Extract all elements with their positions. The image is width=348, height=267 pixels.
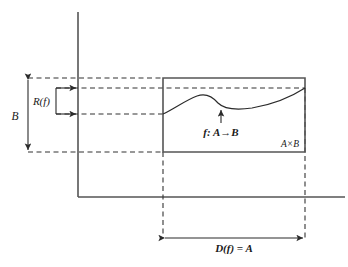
function-curve	[163, 88, 305, 114]
domain-label: D(f) = A	[214, 242, 253, 255]
vertical-guides-group	[163, 88, 305, 238]
figure-canvas: B R(f) f: A→B A×B D(f) = A	[0, 0, 348, 267]
range-bracket-group	[56, 88, 76, 114]
range-label: R(f)	[32, 95, 50, 108]
codomain-label: B	[11, 110, 18, 122]
horizontal-guides-group	[28, 78, 305, 152]
diagram-svg: B R(f) f: A→B A×B D(f) = A	[0, 0, 348, 267]
function-label: f: A→B	[203, 126, 238, 138]
product-label: A×B	[280, 139, 299, 149]
function-curve-group	[163, 88, 305, 114]
